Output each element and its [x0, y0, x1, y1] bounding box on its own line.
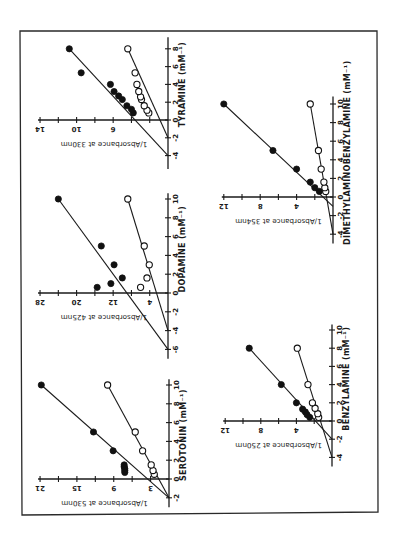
data-point-filled	[300, 406, 306, 412]
y-axis-title: 1/Absorbance at 330nm	[61, 140, 148, 149]
y-axis-title: 1/Absorbance at 250nm	[235, 441, 322, 450]
data-point-open	[141, 243, 147, 249]
data-point-open	[146, 262, 152, 268]
data-point-open	[139, 448, 145, 454]
y-tick-label: 4	[294, 426, 299, 434]
data-point-open	[137, 284, 143, 290]
figure-canvas: -4-20246861014TYRAMINE (mM⁻¹)1/Absorbanc…	[0, 0, 396, 539]
x-axis-title: DOPAMINE (mM⁻¹)	[178, 206, 187, 292]
x-tick-label: -2	[172, 308, 180, 316]
data-point-filled	[307, 179, 313, 185]
y-tick-label: 6	[111, 125, 116, 133]
data-point-filled	[78, 70, 84, 76]
panel-serotonin: -20246810391521SEROTONIN (mM⁻¹)1/Absorba…	[35, 379, 188, 508]
x-tick-label: -2	[336, 435, 344, 443]
data-point-filled	[270, 147, 276, 153]
data-point-open	[294, 345, 300, 351]
data-point-filled	[246, 345, 252, 351]
y-tick-label: 12	[220, 426, 230, 434]
data-point-filled	[110, 448, 116, 454]
x-tick-label: -2	[173, 494, 181, 502]
y-tick-label: 21	[35, 484, 45, 492]
data-point-open	[309, 400, 315, 406]
x-axis-title: TYRAMINE (mM⁻¹)	[178, 42, 187, 127]
y-tick-label: 9	[111, 484, 116, 492]
data-point-filled	[111, 262, 117, 268]
data-point-filled	[293, 400, 299, 406]
x-tick-label: -4	[172, 152, 180, 160]
data-point-open	[315, 147, 321, 153]
data-point-open	[105, 382, 111, 388]
x-axis-title: BENZYLAMINE (mM⁻¹)	[342, 327, 351, 431]
data-point-filled	[38, 382, 44, 388]
data-point-open	[321, 179, 327, 185]
y-tick-label: 12	[219, 202, 229, 210]
data-point-open	[125, 46, 131, 52]
y-tick-label: 15	[72, 484, 82, 492]
panel-dimethylaminobenzylamine: -4-202468104812DIMETHYLAMINOBENZYLAMINE …	[219, 61, 352, 245]
data-point-open	[134, 81, 140, 87]
data-point-open	[144, 275, 150, 281]
data-point-filled	[55, 196, 61, 202]
y-tick-label: 20	[72, 298, 82, 306]
y-axis-title: 1/Absorbance at 425nm	[61, 313, 148, 322]
data-point-open	[307, 101, 313, 107]
fit-line-open	[108, 385, 169, 498]
data-point-filled	[94, 284, 100, 290]
panel-tyramine: -4-20246861014TYRAMINE (mM⁻¹)1/Absorbanc…	[35, 37, 187, 169]
y-tick-label: 8	[258, 202, 263, 210]
panel-benzylamine: -4-202468104812BENZYLAMINE (mM⁻¹)1/Absor…	[220, 325, 351, 467]
y-tick-label: 4	[294, 202, 299, 210]
data-point-filled	[278, 382, 284, 388]
data-point-open	[305, 382, 311, 388]
y-tick-label: 10	[72, 125, 82, 133]
data-point-filled	[121, 462, 127, 468]
data-point-filled	[124, 103, 130, 109]
x-axis-title: DIMETHYLAMINOBENZYLAMINE (mM⁻¹)	[343, 61, 352, 245]
panel-dopamine: -6-4-202468104122028DOPAMINE (mM⁻¹)1/Abs…	[35, 193, 187, 358]
y-tick-label: 4	[147, 298, 152, 306]
figure-frame	[20, 31, 378, 515]
x-axis-title: SEROTONIN (mM⁻¹)	[179, 389, 188, 481]
fit-line-filled	[58, 199, 168, 349]
x-tick-label: 10	[172, 194, 180, 204]
data-point-open	[318, 166, 324, 172]
y-tick-label: 3	[148, 484, 153, 492]
data-point-filled	[66, 46, 72, 52]
data-point-filled	[90, 429, 96, 435]
x-tick-label: -4	[336, 453, 344, 461]
data-point-open	[132, 429, 138, 435]
fit-line-open	[128, 49, 168, 138]
data-point-filled	[107, 81, 113, 87]
data-point-filled	[108, 281, 114, 287]
data-point-filled	[119, 275, 125, 281]
y-axis-title: 1/Absorbance at 354nm	[235, 217, 322, 226]
data-point-open	[125, 196, 131, 202]
y-axis-title: 1/Absorbance at 530nm	[61, 499, 148, 508]
x-tick-label: 10	[173, 380, 181, 390]
y-tick-label: 8	[258, 426, 263, 434]
data-point-filled	[294, 166, 300, 172]
y-tick-label: 28	[35, 298, 45, 306]
y-tick-label: 12	[108, 298, 118, 306]
x-tick-label: -6	[172, 345, 180, 353]
data-point-filled	[111, 88, 117, 94]
x-tick-label: -4	[172, 327, 180, 335]
x-tick-label: -2	[172, 134, 180, 142]
data-point-filled	[312, 185, 318, 191]
fit-line-filled	[249, 348, 332, 439]
data-point-open	[136, 88, 142, 94]
data-point-filled	[221, 101, 227, 107]
fit-line-filled	[69, 49, 168, 156]
data-point-open	[132, 70, 138, 76]
data-point-open	[141, 103, 147, 109]
data-point-open	[148, 462, 154, 468]
y-tick-label: 14	[35, 125, 45, 133]
panels-group: -4-20246861014TYRAMINE (mM⁻¹)1/Absorbanc…	[35, 37, 352, 508]
fit-line-filled	[41, 385, 169, 498]
data-point-filled	[98, 243, 104, 249]
